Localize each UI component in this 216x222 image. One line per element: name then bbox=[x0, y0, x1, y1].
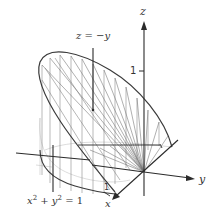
y-axis-label: y bbox=[199, 174, 205, 185]
plane-hatch-lines bbox=[42, 58, 130, 190]
cylinder-equation-label: x2 + y2 = 1 bbox=[27, 195, 83, 206]
plane-fan-lines bbox=[42, 55, 168, 172]
plane-label-point bbox=[92, 109, 95, 112]
z-tick-label: 1 bbox=[130, 66, 136, 76]
cyl-eq: = 1 bbox=[62, 195, 83, 206]
x-axis bbox=[116, 140, 178, 196]
x-tick-label: 1 bbox=[104, 184, 109, 192]
cyl-plus-y: + y bbox=[37, 195, 57, 206]
x-axis-label: x bbox=[105, 199, 111, 209]
z-axis-arrow bbox=[141, 21, 147, 30]
z-axis-label: z bbox=[140, 6, 146, 17]
y-axis-arrow bbox=[186, 175, 195, 181]
y-axis bbox=[144, 172, 190, 178]
plane-equation-label: z = −y bbox=[76, 31, 110, 41]
